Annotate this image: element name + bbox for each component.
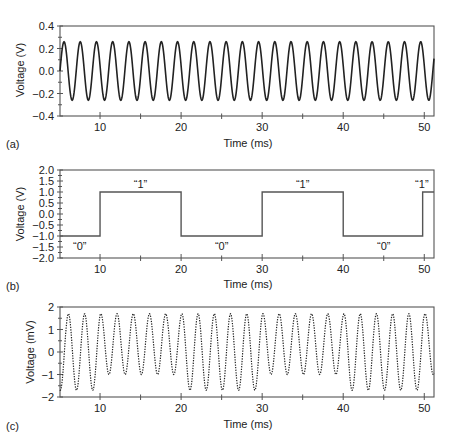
x-tick-label: 40 bbox=[337, 402, 349, 414]
y-tick-label: −1 bbox=[41, 369, 54, 381]
x-tick-label: 50 bbox=[418, 121, 430, 133]
x-tick-label: 40 bbox=[337, 263, 349, 275]
y-tick-label: −0.4 bbox=[32, 110, 54, 122]
y-tick-label: 1 bbox=[48, 324, 54, 336]
panel-a-label: (a) bbox=[6, 138, 19, 150]
panel-b-axes: 1020304050−2.0−1.5−1.0−0.50.00.51.01.52.… bbox=[32, 164, 434, 275]
panel-c: 1020304050−2−1012 Voltage (mV) Time (ms)… bbox=[6, 301, 434, 432]
panel-a-sine-line bbox=[60, 42, 434, 101]
bit-annotation: “0” bbox=[377, 240, 391, 252]
x-tick-label: 30 bbox=[256, 263, 268, 275]
y-tick-label: 1.5 bbox=[39, 175, 54, 187]
x-tick-label: 10 bbox=[94, 402, 106, 414]
panel-c-label: (c) bbox=[6, 420, 19, 432]
panel-a: 1020304050−0.4−0.20.00.20.4 Voltage (V) … bbox=[6, 20, 434, 150]
bit-annotation: “0” bbox=[73, 240, 87, 252]
y-tick-label: 0.5 bbox=[39, 197, 54, 209]
panel-b-label: (b) bbox=[6, 280, 19, 292]
panel-a-xlabel: Time (ms) bbox=[223, 137, 272, 149]
panel-c-xlabel: Time (ms) bbox=[223, 418, 272, 430]
x-tick-label: 40 bbox=[337, 121, 349, 133]
x-tick-label: 30 bbox=[256, 121, 268, 133]
y-tick-label: 0.4 bbox=[39, 20, 54, 32]
y-tick-label: −0.5 bbox=[32, 219, 54, 231]
y-tick-label: −1.0 bbox=[32, 230, 54, 242]
x-tick-label: 30 bbox=[256, 402, 268, 414]
x-tick-label: 20 bbox=[175, 263, 187, 275]
x-tick-label: 10 bbox=[94, 121, 106, 133]
y-tick-label: 2.0 bbox=[39, 164, 54, 176]
bit-annotation: “1” bbox=[134, 178, 148, 190]
y-tick-label: −1.5 bbox=[32, 241, 54, 253]
y-tick-label: −2 bbox=[41, 391, 54, 403]
panel-a-ylabel: Voltage (V) bbox=[14, 43, 26, 97]
x-tick-label: 20 bbox=[175, 121, 187, 133]
y-tick-label: 2 bbox=[48, 301, 54, 313]
panel-c-axes: 1020304050−2−1012 bbox=[41, 301, 434, 414]
x-tick-label: 50 bbox=[418, 402, 430, 414]
y-tick-label: 0.2 bbox=[39, 43, 54, 55]
panel-c-ylabel: Voltage (mV) bbox=[24, 320, 36, 384]
panel-b-xlabel: Time (ms) bbox=[223, 278, 272, 290]
panel-b-square-wave bbox=[60, 192, 434, 236]
figure: 1020304050−0.4−0.20.00.20.4 Voltage (V) … bbox=[0, 0, 458, 441]
y-tick-label: −2.0 bbox=[32, 252, 54, 264]
x-tick-label: 20 bbox=[175, 402, 187, 414]
y-tick-label: −0.2 bbox=[32, 88, 54, 100]
panel-b: 1020304050−2.0−1.5−1.0−0.50.00.51.01.52.… bbox=[6, 164, 434, 292]
y-tick-label: 0.0 bbox=[39, 65, 54, 77]
y-tick-label: 1.0 bbox=[39, 186, 54, 198]
x-tick-label: 50 bbox=[418, 263, 430, 275]
y-tick-label: 0 bbox=[48, 346, 54, 358]
panel-b-bit-annotations: “0”“1”“0”“1”“0”“1” bbox=[73, 178, 429, 252]
panel-c-modulated-line bbox=[60, 314, 434, 391]
bit-annotation: “1” bbox=[415, 178, 429, 190]
figure-canvas: 1020304050−0.4−0.20.00.20.4 Voltage (V) … bbox=[0, 0, 458, 441]
panel-b-ylabel: Voltage (V) bbox=[14, 187, 26, 241]
bit-annotation: “1” bbox=[296, 178, 310, 190]
x-tick-label: 10 bbox=[94, 263, 106, 275]
bit-annotation: “0” bbox=[215, 240, 229, 252]
y-tick-label: 0.0 bbox=[39, 208, 54, 220]
